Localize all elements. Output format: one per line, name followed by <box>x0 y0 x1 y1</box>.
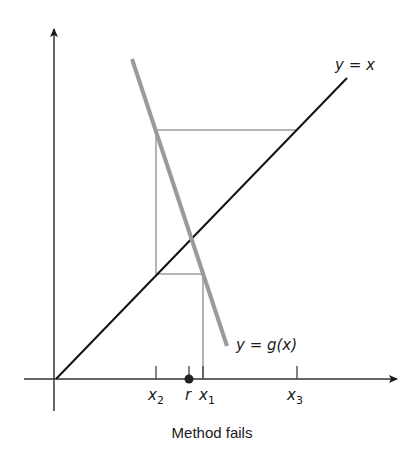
x-ticks <box>156 366 297 379</box>
cobweb-diagram: y = x y = g(x) x2 r x1 x3 Method fails <box>0 0 414 462</box>
identity-label: y = x <box>334 56 375 74</box>
g-curve-label: y = g(x) <box>235 336 297 354</box>
root-point <box>185 375 194 384</box>
tick-label-r: r <box>185 386 192 404</box>
diagram-caption: Method fails <box>172 424 253 441</box>
identity-line <box>56 78 347 379</box>
tick-label-x2: x2 <box>147 386 164 407</box>
g-curve <box>132 59 227 346</box>
tick-label-x3: x3 <box>286 386 303 407</box>
tick-label-x1: x1 <box>198 386 215 407</box>
